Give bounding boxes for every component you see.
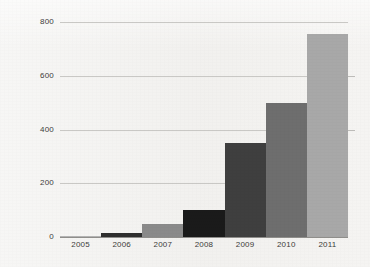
y-axis-tick-label: 400 <box>14 126 54 134</box>
y-axis-tick-label: 200 <box>14 179 54 187</box>
x-axis-tick-label-2005: 2005 <box>60 241 101 249</box>
bar-2008 <box>183 210 224 237</box>
x-axis-tick-labels: 2005 2006 2007 2008 2009 2010 2011 <box>60 241 348 255</box>
y-axis-tick-label: 800 <box>14 18 54 26</box>
plot-area <box>60 22 348 237</box>
x-axis-baseline <box>60 237 348 238</box>
bar-2011 <box>307 34 348 237</box>
x-axis-tick-label-2011: 2011 <box>307 241 348 249</box>
bar-2010 <box>266 103 307 237</box>
bar-2005 <box>60 236 101 237</box>
bar-2006 <box>101 233 142 237</box>
bar-2007 <box>142 224 183 237</box>
right-tick-600 <box>348 76 355 77</box>
y-axis-tick-label: 600 <box>14 72 54 80</box>
y-axis-tick-label: 0 <box>14 233 54 241</box>
right-tick-400 <box>348 130 355 131</box>
bar-chart: 800 600 400 200 0 2005 2 <box>0 0 370 267</box>
bar-2009 <box>225 143 266 237</box>
x-axis-tick-label-2009: 2009 <box>225 241 266 249</box>
x-axis-tick-label-2010: 2010 <box>266 241 307 249</box>
x-axis-tick-label-2008: 2008 <box>183 241 224 249</box>
x-axis-tick-label-2007: 2007 <box>142 241 183 249</box>
x-axis-tick-label-2006: 2006 <box>101 241 142 249</box>
bar-series <box>60 22 348 237</box>
